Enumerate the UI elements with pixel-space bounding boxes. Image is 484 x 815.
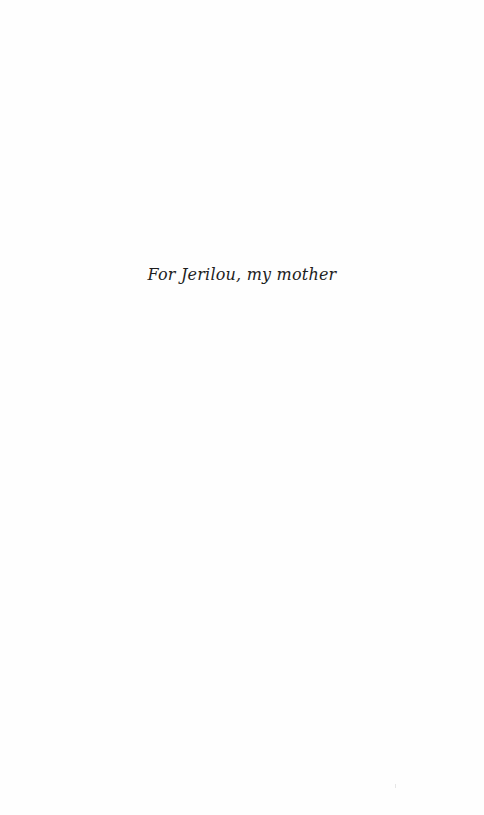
book-page: For Jerilou, my mother bbox=[0, 0, 484, 815]
dedication-text: For Jerilou, my mother bbox=[0, 264, 484, 286]
scan-artifact bbox=[395, 784, 396, 788]
